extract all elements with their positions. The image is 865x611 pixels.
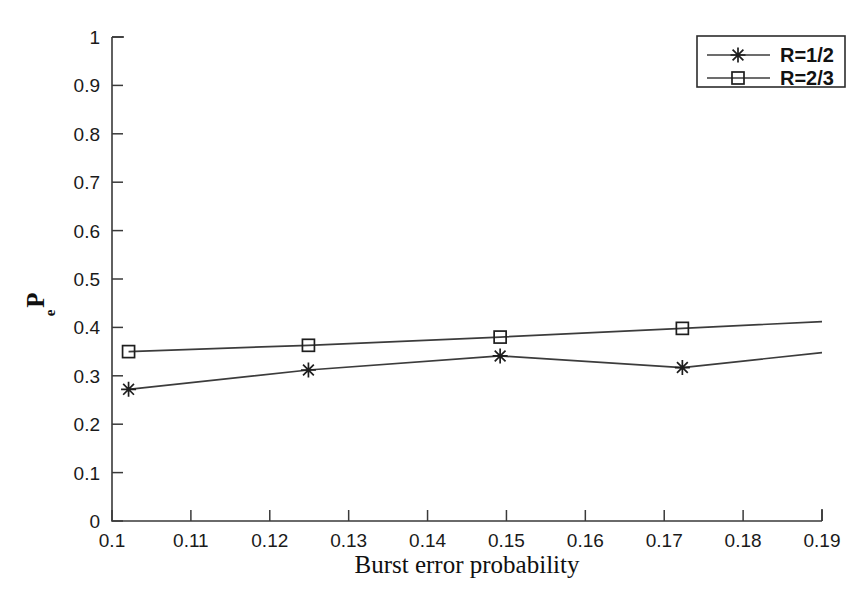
x-tick-label: 0.17 — [646, 530, 683, 551]
x-tick-label: 0.15 — [488, 530, 525, 551]
data-point-marker — [301, 362, 316, 377]
chart-figure: 00.10.20.30.40.50.60.70.80.91 0.10.110.1… — [0, 0, 865, 611]
data-point-marker — [121, 382, 136, 397]
y-tick-label: 0.6 — [74, 221, 100, 242]
x-tick-label: 0.11 — [173, 530, 209, 551]
series-line — [129, 322, 822, 352]
data-point-marker — [675, 360, 690, 375]
y-axis: 00.10.20.30.40.50.60.70.80.91 — [74, 27, 123, 532]
x-tick-label: 0.14 — [409, 530, 446, 551]
legend-label: R=1/2 — [780, 44, 834, 66]
y-axis-title-base: P — [22, 292, 49, 307]
x-tick-label: 0.13 — [330, 530, 367, 551]
x-tick-label: 0.16 — [567, 530, 604, 551]
y-tick-label: 0.7 — [74, 172, 100, 193]
axis-lines — [112, 37, 822, 521]
x-axis-title: Burst error probability — [355, 551, 580, 578]
y-tick-label: 0.8 — [74, 124, 100, 145]
y-tick-label: 0.2 — [74, 414, 100, 435]
series-line — [129, 353, 822, 390]
series-r-1-2 — [121, 348, 822, 396]
y-axis-title-subscript: e — [42, 309, 58, 316]
y-tick-label: 0.3 — [74, 366, 100, 387]
legend[interactable]: R=1/2R=2/3 — [697, 36, 845, 89]
line-chart: 00.10.20.30.40.50.60.70.80.91 0.10.110.1… — [0, 0, 865, 611]
y-tick-label: 0.5 — [74, 269, 100, 290]
x-tick-label: 0.1 — [99, 530, 125, 551]
y-tick-label: 0.9 — [74, 75, 100, 96]
data-point-marker — [493, 348, 508, 363]
y-tick-label: 0.1 — [74, 463, 100, 484]
data-series-group — [121, 322, 822, 397]
axis-frame — [112, 37, 822, 521]
x-tick-label: 0.12 — [251, 530, 288, 551]
x-axis: 0.10.110.120.130.140.150.160.170.180.19 — [99, 510, 841, 551]
y-tick-label: 0.4 — [74, 317, 101, 338]
x-tick-label: 0.19 — [804, 530, 841, 551]
x-tick-label: 0.18 — [725, 530, 762, 551]
legend-label: R=2/3 — [780, 67, 834, 89]
series-r-2-3 — [123, 322, 822, 358]
legend-marker-asterisk-icon — [731, 48, 746, 63]
y-tick-label: 1 — [89, 27, 100, 48]
y-tick-label: 0 — [89, 511, 100, 532]
y-axis-title: P e — [22, 292, 58, 316]
